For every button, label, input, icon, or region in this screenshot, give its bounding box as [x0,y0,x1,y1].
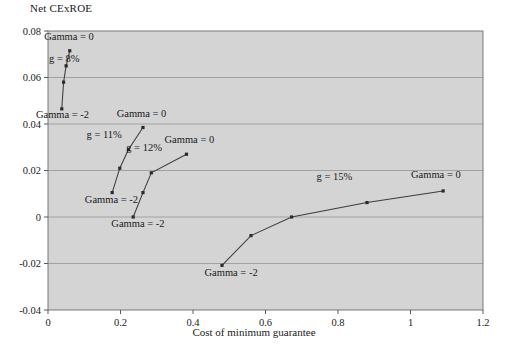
series-label: g = 15% [317,171,353,182]
series-label: g = 11% [87,129,123,140]
point-annotation: Gamma = 0 [411,169,461,180]
data-point-marker [442,189,445,192]
y-axis-ticks: 0.080.060.040.020-0.02-0.04 [19,26,48,316]
y-tick-label: 0.02 [23,165,41,176]
series-label: g = 8% [49,53,80,64]
data-point-marker [118,167,121,170]
y-tick-label: 0 [36,212,41,223]
y-tick-label: -0.02 [19,258,41,269]
data-point-marker [365,201,368,204]
chart-canvas: 00.20.40.60.811.2 0.080.060.040.020-0.02… [0,0,508,347]
y-tick-label: 0.08 [23,26,41,37]
data-point-marker [185,153,188,156]
data-point-marker [141,126,144,129]
data-point-marker [249,234,252,237]
data-point-marker [65,64,68,67]
point-annotation: Gamma = -2 [36,109,89,120]
point-annotation: Gamma = -2 [85,194,138,205]
point-annotation: Gamma = 0 [165,134,215,145]
data-point-marker [290,215,293,218]
data-point-marker [150,171,153,174]
point-annotation: Gamma = 0 [117,108,167,119]
chart-page: Net CExROE 00.20.40.60.811.2 0.080.060.0… [0,0,508,347]
data-point-marker [141,191,144,194]
data-point-marker [62,81,65,84]
point-annotation: Gamma = 0 [44,31,94,42]
x-axis-title: Cost of minimum guarantee [0,326,508,338]
data-point-marker [68,49,71,52]
y-tick-label: 0.06 [23,72,41,83]
series-label: g = 12% [126,142,162,153]
point-annotation: Gamma = -2 [111,218,164,229]
y-tick-label: -0.04 [19,305,42,316]
point-annotation: Gamma = -2 [204,267,257,278]
